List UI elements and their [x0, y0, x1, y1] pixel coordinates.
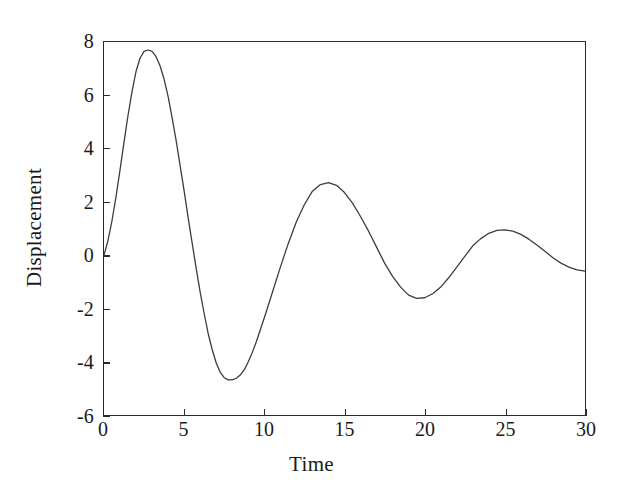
y-tick-6 [103, 95, 110, 96]
y-tick-label-4: 4 [84, 138, 94, 158]
plot-area [103, 41, 586, 416]
x-tick-30 [586, 409, 587, 416]
y-axis-label: Displacement [22, 108, 47, 348]
y-tick-label-0: 0 [84, 245, 94, 265]
x-tick-label-0: 0 [83, 418, 123, 440]
figure-canvas: 8 6 4 2 0 -2 -4 -6 0 5 10 15 20 25 30 Ti… [0, 0, 623, 493]
y-tick-label-neg2: -2 [77, 299, 94, 319]
x-tick-10 [264, 409, 265, 416]
y-tick-0 [103, 255, 110, 256]
x-tick-15 [345, 409, 346, 416]
y-tick-neg4 [103, 362, 110, 363]
y-tick-8 [103, 41, 110, 42]
y-tick-4 [103, 148, 110, 149]
y-tick-label-neg4: -4 [77, 352, 94, 372]
x-axis-label: Time [0, 452, 623, 477]
y-tick-label-6: 6 [84, 85, 94, 105]
y-tick-neg2 [103, 309, 110, 310]
y-axis-label-container: Displacement [10, 0, 50, 493]
x-tick-0 [103, 409, 104, 416]
data-series-canvas [104, 42, 585, 415]
x-tick-label-10: 10 [244, 418, 284, 440]
y-tick-label-8: 8 [84, 31, 94, 51]
y-tick-label-2: 2 [84, 192, 94, 212]
x-tick-25 [506, 409, 507, 416]
x-tick-label-20: 20 [405, 418, 445, 440]
x-tick-label-25: 25 [486, 418, 526, 440]
line-series-displacement [104, 50, 585, 380]
x-tick-label-30: 30 [566, 418, 606, 440]
x-tick-label-5: 5 [164, 418, 204, 440]
x-tick-5 [184, 409, 185, 416]
x-tick-label-15: 15 [325, 418, 365, 440]
x-tick-20 [425, 409, 426, 416]
y-tick-2 [103, 202, 110, 203]
